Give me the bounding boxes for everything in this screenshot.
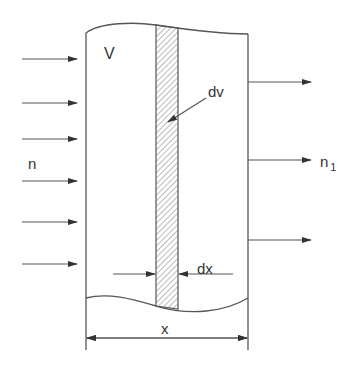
label-volume-v: V <box>104 46 115 62</box>
label-x: x <box>161 321 169 336</box>
label-transmitted-base: n <box>320 153 328 170</box>
label-incident-n: n <box>28 156 36 171</box>
label-dv: dv <box>208 84 224 99</box>
outgoing-arrows <box>248 82 311 240</box>
diagram-canvas <box>0 0 349 368</box>
label-dx: dx <box>197 261 213 276</box>
label-transmitted-n1: n1 <box>320 154 336 169</box>
hatched-strip-dv <box>156 25 178 309</box>
label-transmitted-subscript: 1 <box>330 161 336 173</box>
